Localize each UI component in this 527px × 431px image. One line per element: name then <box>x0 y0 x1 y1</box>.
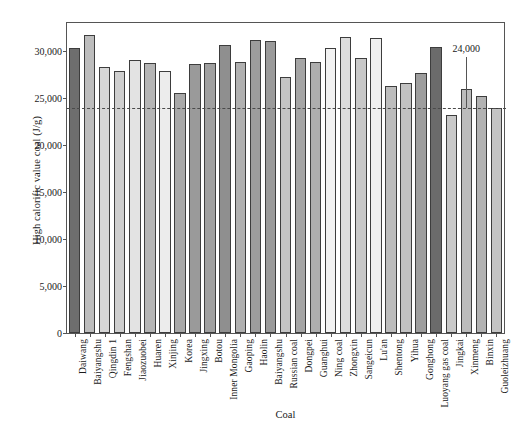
y-axis-tick <box>63 239 67 240</box>
bar <box>144 63 155 333</box>
x-axis-tick <box>436 333 437 337</box>
bar <box>446 115 457 333</box>
x-axis-tick-label: Jingkai <box>455 339 465 367</box>
x-axis-tick-label: Ning coal <box>334 339 344 377</box>
bar <box>310 62 321 333</box>
x-axis-tick <box>496 333 497 337</box>
x-axis-title: Coal <box>66 409 505 420</box>
threshold-label: 24,000 <box>453 43 481 54</box>
x-axis-tick-label: Korea <box>184 339 194 363</box>
y-axis-tick <box>63 286 67 287</box>
x-axis-tick-label: Russian coal <box>289 339 299 388</box>
x-axis-tick-label: Xinmeng <box>470 339 480 375</box>
y-axis-tick-label: 0 <box>57 328 62 339</box>
threshold-reference-line <box>67 108 506 109</box>
y-axis-tick <box>63 145 67 146</box>
bar <box>280 77 291 333</box>
bar <box>174 93 185 333</box>
x-axis-tick-label: Binxin <box>485 339 495 365</box>
y-axis-tick <box>63 333 67 334</box>
bar <box>491 108 502 333</box>
x-axis-tick-label: Gaoping <box>244 339 254 372</box>
x-axis-tick-label: Shentong <box>394 339 404 376</box>
x-axis-tick-label: Guoleizhuang <box>500 339 510 394</box>
x-axis-tick-label: Dongpei <box>304 339 314 372</box>
bar <box>400 83 411 333</box>
bar <box>340 37 351 333</box>
bar <box>370 38 381 333</box>
x-axis-tick <box>255 333 256 337</box>
x-axis-tick <box>165 333 166 337</box>
x-axis-tick <box>105 333 106 337</box>
bar <box>385 86 396 333</box>
x-axis-tick <box>406 333 407 337</box>
x-axis-tick-label: Jingxing <box>199 339 209 373</box>
bar <box>219 45 230 333</box>
x-axis-tick-label: Sangeicun <box>364 339 374 379</box>
y-axis-tick-label: 15,000 <box>35 187 63 198</box>
bar <box>69 48 80 333</box>
y-axis-tick-label: 5,000 <box>40 281 63 292</box>
bar <box>355 58 366 333</box>
x-axis-tick <box>195 333 196 337</box>
bar <box>235 62 246 333</box>
x-axis-tick-label: Xinjing <box>168 339 178 369</box>
bars-layer <box>67 23 504 333</box>
x-axis-tick <box>481 333 482 337</box>
x-axis-tick <box>421 333 422 337</box>
x-axis-tick <box>331 333 332 337</box>
x-axis-tick-label: Fengshan <box>123 339 133 376</box>
x-axis-tick <box>180 333 181 337</box>
x-axis-tick <box>451 333 452 337</box>
x-axis-tick <box>135 333 136 337</box>
y-axis-tick-label: 10,000 <box>35 234 63 245</box>
x-axis-tick <box>286 333 287 337</box>
x-axis-tick-label: Baiyangshu <box>93 339 103 385</box>
bar <box>415 73 426 333</box>
x-axis-tick <box>90 333 91 337</box>
bar <box>250 40 261 333</box>
x-axis-tick <box>150 333 151 337</box>
x-axis-tick <box>316 333 317 337</box>
bar <box>204 63 215 333</box>
x-axis-tick-label: Yihua <box>410 339 420 362</box>
x-axis-tick-label: Luoyang gas coal <box>440 339 450 408</box>
plot-area: 24,000 05,00010,00015,00020,00025,00030,… <box>66 22 505 334</box>
x-axis-tick <box>466 333 467 337</box>
x-axis-tick-label: Haolin <box>259 339 269 365</box>
x-axis-tick <box>346 333 347 337</box>
bar <box>430 47 441 333</box>
y-axis-tick <box>63 98 67 99</box>
x-axis-tick <box>301 333 302 337</box>
bar <box>189 64 200 333</box>
x-axis-tick-label: Botou <box>214 339 224 363</box>
x-axis-tick-label: Huaren <box>153 339 163 368</box>
y-axis-tick-label: 25,000 <box>35 93 63 104</box>
bar <box>159 71 170 333</box>
threshold-leader-line <box>466 57 467 108</box>
bar <box>265 41 276 333</box>
x-axis-tick <box>120 333 121 337</box>
x-axis-tick <box>210 333 211 337</box>
x-axis-tick-label: Lu'an <box>379 339 389 361</box>
x-axis-tick <box>225 333 226 337</box>
bar <box>114 71 125 333</box>
chart-figure: High calorific value coal (J/g) 24,000 0… <box>0 0 527 431</box>
bar <box>325 48 336 333</box>
x-axis-tick-label: Qingdin 1 <box>108 339 118 378</box>
x-axis-tick-label: Guanghui <box>319 339 329 377</box>
x-axis-tick-label: Baiyangshu <box>274 339 284 385</box>
x-axis-tick-label: Jiaozuobei <box>138 339 148 381</box>
x-axis-tick <box>361 333 362 337</box>
y-axis-tick-label: 30,000 <box>35 46 63 57</box>
x-axis-tick <box>270 333 271 337</box>
bar <box>129 60 140 333</box>
y-axis-tick-label: 20,000 <box>35 140 63 151</box>
x-axis-tick <box>75 333 76 337</box>
y-axis-tick <box>63 51 67 52</box>
bar <box>476 96 487 333</box>
x-axis-tick-label: Zhongxin <box>349 339 359 377</box>
x-axis-tick-label: Gonghong <box>425 339 435 380</box>
x-axis-tick-label: Inner Mongolia <box>229 339 239 400</box>
bar <box>84 35 95 333</box>
